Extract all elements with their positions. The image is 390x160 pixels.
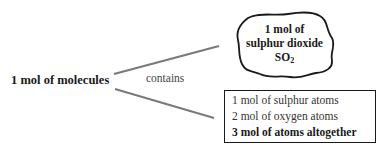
- formula-subscript: 2: [290, 56, 294, 65]
- box-line-oxygen: 2 mol of oxygen atoms: [232, 110, 338, 122]
- cloud-line-2: sulphur dioxide: [236, 36, 333, 50]
- connector-to-box: [115, 89, 214, 118]
- box-line-total: 3 mol of atoms altogether: [232, 126, 357, 138]
- formula-base: SO: [275, 51, 290, 63]
- connector-to-cloud: [114, 46, 219, 74]
- cloud-line-1: 1 mol of: [236, 22, 333, 36]
- cloud-node: 1 mol of sulphur dioxide SO2: [236, 22, 333, 68]
- cloud-formula: SO2: [236, 50, 333, 68]
- atoms-box: 1 mol of sulphur atoms 2 mol of oxygen a…: [224, 90, 376, 143]
- box-line-sulphur: 1 mol of sulphur atoms: [232, 94, 339, 106]
- root-node-label: 1 mol of molecules: [11, 73, 109, 88]
- edge-label: contains: [146, 72, 184, 84]
